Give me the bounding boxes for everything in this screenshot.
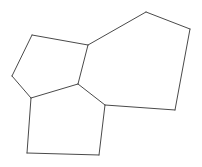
polygon-figure-canvas bbox=[0, 0, 202, 167]
